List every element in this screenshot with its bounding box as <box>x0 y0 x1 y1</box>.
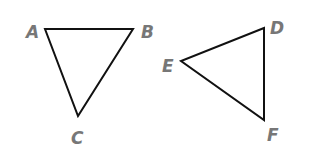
triangle-abc <box>45 29 133 116</box>
vertex-label-c: C <box>71 128 84 148</box>
congruent-triangles-diagram: A B C D E F <box>0 0 312 155</box>
triangle-def <box>181 28 264 120</box>
vertex-label-d: D <box>270 18 284 38</box>
vertex-label-f: F <box>267 125 279 145</box>
vertex-label-b: B <box>141 22 154 42</box>
vertex-label-a: A <box>24 22 39 42</box>
vertex-label-e: E <box>162 56 174 76</box>
